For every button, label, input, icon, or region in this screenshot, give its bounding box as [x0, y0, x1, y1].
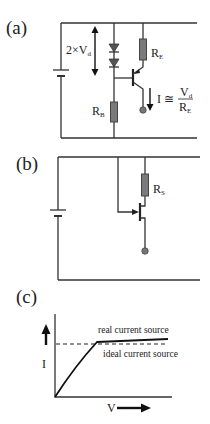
- current-arrow-icon: [147, 88, 154, 111]
- panel-a-label: (a): [6, 17, 27, 39]
- frac-numerator: Vd: [180, 85, 193, 100]
- jfet-icon: [132, 196, 145, 249]
- x-axis-label: V: [107, 401, 116, 415]
- output-terminal: [140, 107, 146, 113]
- frac-denominator: RE: [179, 100, 191, 115]
- ideal-source-label: ideal current source: [103, 349, 178, 359]
- resistor-rs: [142, 174, 149, 196]
- re-label: RE: [151, 46, 163, 61]
- rb-label: RB: [92, 104, 105, 119]
- y-axis-label: I: [42, 357, 46, 371]
- pnp-transistor-icon: [133, 60, 143, 108]
- panel-c: (c) I V real current source ideal curren…: [16, 286, 178, 415]
- real-current-line: [55, 339, 168, 397]
- panel-b: (b) RS: [16, 153, 200, 280]
- resistor-re: [140, 39, 147, 60]
- current-equation: I ≅: [157, 92, 174, 106]
- right-arrow-icon: [117, 404, 151, 413]
- rs-label: RS: [153, 182, 165, 197]
- gate-wire: [118, 157, 136, 212]
- up-arrow-icon: [42, 324, 51, 345]
- voltage-drop-label: 2×Vd: [66, 43, 91, 58]
- panel-a: (a) 2×Vd RB: [6, 17, 197, 138]
- panel-b-label: (b): [16, 153, 38, 175]
- battery-icon: [50, 210, 66, 216]
- real-source-label: real current source: [98, 325, 169, 335]
- resistor-rb: [111, 102, 118, 122]
- output-terminal: [142, 248, 148, 254]
- battery-icon: [53, 70, 69, 76]
- panel-c-label: (c): [16, 286, 37, 308]
- current-source-figure: (a) 2×Vd RB: [0, 0, 210, 424]
- diode-icon: [109, 44, 119, 52]
- diode-icon: [109, 59, 119, 67]
- double-arrow-icon: [92, 26, 99, 76]
